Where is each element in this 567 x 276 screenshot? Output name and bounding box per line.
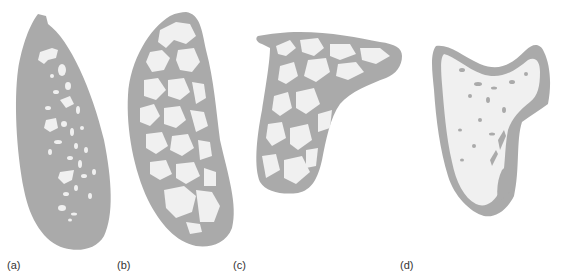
- section-a: [16, 14, 111, 250]
- panel-label-b: (b): [117, 259, 130, 271]
- figure: (a) (b) (c) (d): [0, 0, 567, 276]
- section-b: [128, 12, 234, 246]
- panel-label-d: (d): [400, 259, 413, 271]
- panel-label-a: (a): [7, 259, 20, 271]
- section-d: [432, 45, 550, 216]
- section-c: [256, 32, 402, 194]
- bone-sections-illustration: [0, 0, 567, 276]
- panel-label-c: (c): [233, 259, 246, 271]
